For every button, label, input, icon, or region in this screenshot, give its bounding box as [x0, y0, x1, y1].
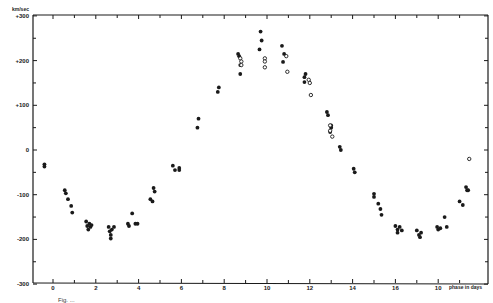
y-tick-label: +200: [15, 58, 29, 64]
filled-data-point: [173, 168, 177, 172]
filled-data-point: [238, 72, 242, 76]
y-tick-label: +300: [15, 13, 29, 19]
open-data-point: [331, 135, 334, 138]
filled-data-point: [259, 30, 263, 34]
filled-data-point: [69, 204, 73, 208]
filled-data-point: [152, 186, 156, 190]
y-axis: +300+200+1000-100-200-300: [15, 13, 488, 287]
open-data-point: [263, 60, 266, 63]
y-tick-label: -300: [17, 281, 30, 287]
filled-data-point: [466, 188, 470, 192]
filled-data-point: [400, 229, 404, 233]
bottom-axis-line: [33, 283, 488, 284]
open-data-point: [240, 60, 243, 63]
filled-data-point: [127, 224, 131, 228]
filled-data-point: [445, 225, 449, 229]
filled-data-point: [458, 200, 462, 204]
filled-data-point: [260, 39, 264, 43]
filled-data-point: [326, 113, 330, 117]
filled-data-point: [339, 148, 343, 152]
filled-data-point: [418, 235, 422, 239]
filled-data-point: [372, 195, 376, 199]
filled-data-point: [107, 225, 111, 229]
filled-data-point: [43, 165, 47, 169]
x-tick-label: 0: [51, 285, 55, 291]
filled-data-point: [197, 117, 201, 121]
filled-data-point: [70, 211, 74, 215]
open-data-point: [328, 124, 331, 127]
filled-data-point: [112, 225, 116, 229]
open-data-point: [285, 54, 288, 57]
filled-data-point: [398, 225, 402, 229]
filled-data-point: [303, 75, 307, 79]
filled-data-point: [353, 170, 357, 174]
filled-data-point: [394, 224, 398, 228]
x-tick-label: 10: [435, 285, 442, 291]
filled-data-point: [280, 44, 284, 48]
open-data-point: [328, 129, 331, 132]
data-points: [43, 30, 471, 241]
filled-data-point: [109, 233, 113, 237]
y-tick-label: -100: [17, 192, 30, 198]
figure-caption: Fig. ...: [58, 297, 75, 303]
filled-data-point: [380, 213, 384, 217]
filled-data-point: [461, 203, 465, 207]
filled-data-point: [379, 207, 383, 211]
x-tick-label: 4: [137, 285, 141, 291]
plot-frame: [33, 15, 488, 284]
open-data-point: [309, 93, 312, 96]
filled-data-point: [217, 86, 221, 90]
filled-data-point: [438, 226, 442, 230]
x-tick-label: 12: [306, 285, 313, 291]
filled-data-point: [136, 222, 140, 226]
x-axis: 024681012141610: [51, 15, 459, 291]
filled-data-point: [177, 168, 181, 172]
open-data-point: [263, 66, 266, 69]
filled-data-point: [415, 229, 419, 233]
filled-data-point: [109, 237, 113, 241]
filled-data-point: [281, 60, 285, 64]
filled-data-point: [352, 167, 356, 171]
filled-data-point: [376, 202, 380, 206]
x-tick-label: 16: [392, 285, 399, 291]
y-tick-label: 0: [26, 147, 30, 153]
x-tick-label: 8: [223, 285, 227, 291]
x-tick-label: 2: [94, 285, 98, 291]
filled-data-point: [90, 223, 94, 227]
filled-data-point: [66, 197, 70, 201]
y-tick-label: +100: [15, 102, 29, 108]
filled-data-point: [153, 190, 157, 194]
radial-velocity-chart: +300+200+1000-100-200-300 02468101214161…: [0, 0, 493, 303]
x-axis-title: phase in days: [449, 284, 482, 290]
x-tick-label: 14: [349, 285, 356, 291]
x-tick-label: 6: [180, 285, 184, 291]
filled-data-point: [86, 228, 90, 232]
filled-data-point: [196, 126, 200, 130]
filled-data-point: [151, 200, 155, 204]
filled-data-point: [303, 80, 307, 84]
filled-data-point: [171, 164, 175, 168]
filled-data-point: [216, 90, 220, 94]
filled-data-point: [443, 215, 447, 219]
filled-data-point: [258, 48, 262, 52]
open-data-point: [308, 81, 311, 84]
x-tick-label: 10: [264, 285, 271, 291]
filled-data-point: [84, 220, 88, 224]
open-data-point: [240, 63, 243, 66]
y-tick-label: -200: [17, 236, 30, 242]
y-axis-unit-label: km/sec: [12, 6, 29, 12]
filled-data-point: [419, 231, 423, 235]
filled-data-point: [396, 231, 400, 235]
open-data-point: [286, 70, 289, 73]
filled-data-point: [130, 212, 134, 216]
open-data-point: [468, 157, 471, 160]
filled-data-point: [64, 191, 68, 195]
